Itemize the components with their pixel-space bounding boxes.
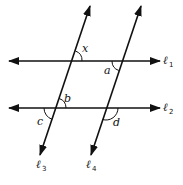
angle-label-c: c xyxy=(37,115,43,128)
line-label-l2: ℓ 2 xyxy=(163,101,173,116)
angle-label-b: b xyxy=(64,92,71,105)
svg-text:2: 2 xyxy=(169,108,173,116)
svg-text:ℓ: ℓ xyxy=(86,158,91,171)
angle-label-x: x xyxy=(82,42,89,55)
line-l4 xyxy=(91,6,141,155)
svg-text:ℓ: ℓ xyxy=(163,54,168,67)
svg-text:4: 4 xyxy=(92,165,97,173)
svg-text:ℓ: ℓ xyxy=(36,158,41,171)
line-l3 xyxy=(40,6,90,155)
angle-label-a: a xyxy=(104,64,111,77)
line-label-l1: ℓ 1 xyxy=(163,54,173,69)
angle-label-d: d xyxy=(113,116,120,129)
line-label-l3: ℓ 3 xyxy=(36,158,46,173)
diagram-canvas: x a b c d ℓ 1 ℓ 2 ℓ 3 ℓ 4 xyxy=(0,0,183,185)
line-label-l4: ℓ 4 xyxy=(86,158,97,173)
angle-arc-a xyxy=(112,61,119,71)
svg-text:ℓ: ℓ xyxy=(163,101,168,114)
angle-arc-c xyxy=(44,108,52,119)
svg-text:1: 1 xyxy=(169,61,173,69)
svg-text:3: 3 xyxy=(42,165,46,173)
